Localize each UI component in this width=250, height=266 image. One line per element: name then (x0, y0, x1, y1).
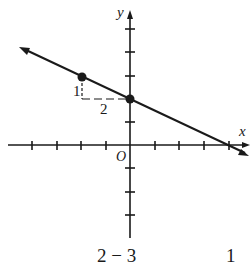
point-0-2 (126, 95, 135, 104)
origin-label: O (116, 150, 126, 164)
graph-line (26, 50, 245, 153)
run-label: 2 (100, 102, 108, 117)
bottom-text-right: 1 (226, 246, 236, 265)
bottom-text-left: 2 − 3 (97, 246, 136, 265)
y-axis (125, 14, 135, 238)
point-neg2-3 (78, 73, 87, 82)
line-arrow-left-icon (19, 47, 30, 55)
x-axis-arrow-icon (242, 142, 250, 148)
x-axis (8, 141, 247, 150)
y-axis-label: y (117, 5, 124, 20)
rise-label: 1 (73, 84, 81, 99)
y-axis-arrow-icon (127, 10, 133, 19)
x-axis-label: x (239, 124, 246, 139)
slope-triangle (82, 78, 128, 99)
